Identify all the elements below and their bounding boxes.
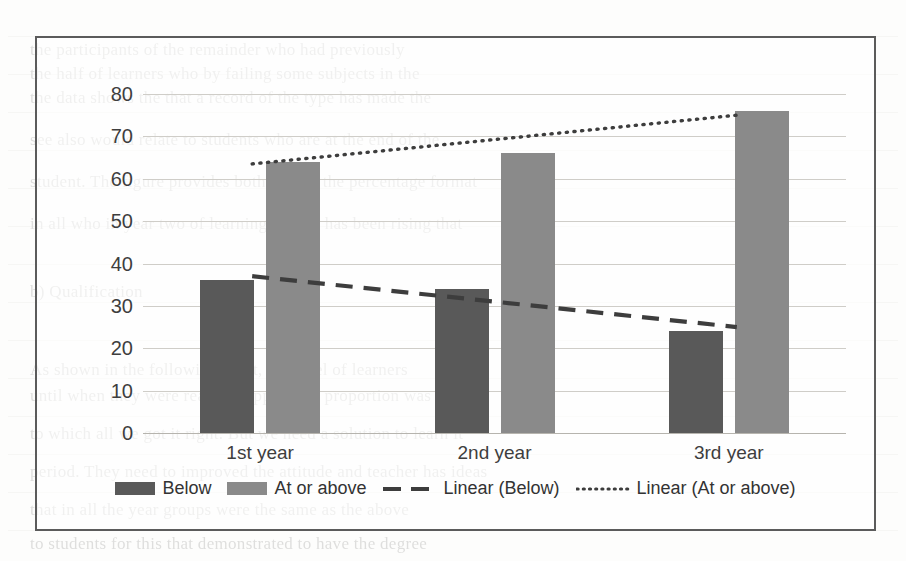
legend-item-at-or-above[interactable]: At or above <box>227 478 366 499</box>
legend-swatch-icon <box>115 482 155 495</box>
bar-at-or-above-3rd-year <box>735 111 789 433</box>
showthrough-text: to students for this that demonstrated t… <box>30 534 427 554</box>
x-axis-label-1st-year: 1st year <box>226 442 294 464</box>
legend-label: At or above <box>274 478 366 499</box>
legend-item-below[interactable]: Below <box>115 478 211 499</box>
y-axis-tick-label: 20 <box>111 337 133 360</box>
legend-swatch-icon <box>227 482 267 495</box>
legend-label: Below <box>162 478 211 499</box>
chart-plot-wrapper: 01020304050607080 1st year2nd year3rd ye… <box>37 38 874 529</box>
bar-below-1st-year <box>200 280 254 433</box>
gridline <box>143 94 846 95</box>
y-axis-tick-label: 80 <box>111 83 133 106</box>
y-axis-tick-label: 30 <box>111 294 133 317</box>
y-axis-tick-label: 40 <box>111 252 133 275</box>
trendline-linear-below <box>252 276 737 327</box>
bar-below-2nd-year <box>435 289 489 433</box>
figure-page: the participants of the remainder who ha… <box>0 0 906 561</box>
y-axis-tick-label: 0 <box>122 422 133 445</box>
x-axis-label-2nd-year: 2nd year <box>458 442 532 464</box>
y-axis-tick-label: 70 <box>111 125 133 148</box>
dotted-line-icon <box>576 483 630 495</box>
y-axis-tick-label: 10 <box>111 379 133 402</box>
legend-label: Linear (Below) <box>443 478 559 499</box>
x-axis-labels: 1st year2nd year3rd year <box>143 442 846 472</box>
bar-below-3rd-year <box>669 331 723 433</box>
y-axis-tick-label: 60 <box>111 167 133 190</box>
plot-area: 01020304050607080 <box>143 94 846 433</box>
y-axis-tick-label: 50 <box>111 210 133 233</box>
chart-frame: 01020304050607080 1st year2nd year3rd ye… <box>35 36 876 531</box>
trendline-linear-at-or-above <box>252 115 737 164</box>
dashed-line-icon <box>382 483 436 495</box>
bar-at-or-above-1st-year <box>266 162 320 433</box>
bar-at-or-above-2nd-year <box>501 153 555 433</box>
legend-item-linear-below[interactable]: Linear (Below) <box>382 478 559 499</box>
legend-item-linear-at-or-above[interactable]: Linear (At or above) <box>576 478 796 499</box>
chart-legend: BelowAt or aboveLinear (Below)Linear (At… <box>37 478 874 499</box>
x-axis-line <box>143 433 846 434</box>
x-axis-label-3rd-year: 3rd year <box>694 442 764 464</box>
legend-label: Linear (At or above) <box>637 478 796 499</box>
